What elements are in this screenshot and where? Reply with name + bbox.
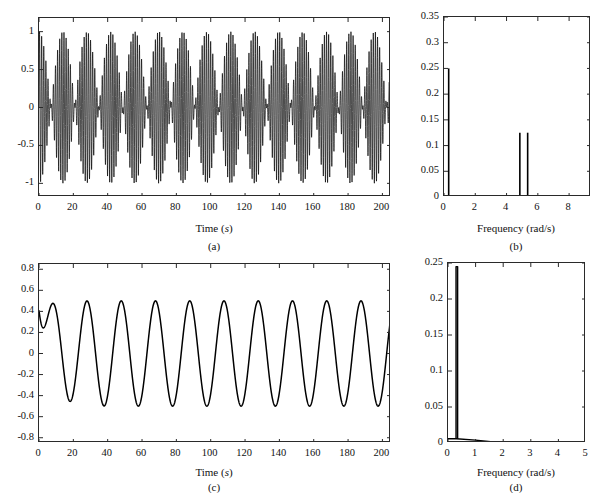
x-tick-label: 4 xyxy=(555,448,560,459)
x-tick-label: 80 xyxy=(170,448,181,459)
y-tick-label: 0.15 xyxy=(409,329,443,340)
x-tick-label: 1 xyxy=(472,448,477,459)
y-tick-label: -1 xyxy=(0,177,34,188)
plot-area-b xyxy=(443,16,590,196)
x-tick-label: 3 xyxy=(527,448,532,459)
y-tick-label: 0.2 xyxy=(405,88,439,99)
y-tick-label: 0.05 xyxy=(405,165,439,176)
x-tick-label: 100 xyxy=(202,448,218,459)
x-tick-label: 180 xyxy=(339,448,355,459)
y-tick-label: -0.6 xyxy=(0,410,34,421)
y-tick-label: 0.35 xyxy=(405,11,439,22)
y-tick-label: -0.5 xyxy=(0,139,34,150)
y-tick-label: 0.2 xyxy=(409,293,443,304)
x-tick-label: 160 xyxy=(305,448,321,459)
y-tick-label: 0.2 xyxy=(0,326,34,337)
y-tick-label: 0 xyxy=(409,437,443,448)
x-tick-label: 40 xyxy=(101,448,112,459)
y-tick-label: 0.1 xyxy=(409,365,443,376)
x-tick-label: 140 xyxy=(271,448,287,459)
plot-area-a xyxy=(38,17,390,196)
x-tick-label: 200 xyxy=(374,448,390,459)
x-tick-label: 20 xyxy=(67,448,78,459)
y-tick-label: 0.4 xyxy=(0,305,34,316)
y-tick-label: 0.25 xyxy=(405,62,439,73)
plot-area-d xyxy=(447,262,585,442)
y-tick-label: 1 xyxy=(0,25,34,36)
x-tick-label: 0 xyxy=(440,202,445,213)
panel-label-d: (d) xyxy=(510,481,523,493)
plot-area-c xyxy=(38,263,390,442)
x-tick-label: 4 xyxy=(503,202,508,213)
x-tick-label: 60 xyxy=(136,202,147,213)
y-tick-label: 0.1 xyxy=(405,139,439,150)
axis-label-b-x: Frequency (rad/s) xyxy=(477,222,555,234)
y-tick-label: -0.4 xyxy=(0,389,34,400)
x-tick-label: 2 xyxy=(500,448,505,459)
y-tick-label: -0.8 xyxy=(0,431,34,442)
x-tick-label: 0 xyxy=(35,448,40,459)
axis-label-a-x: Time (s) xyxy=(195,222,232,234)
y-tick-label: 0.6 xyxy=(0,284,34,295)
axis-label-d-x: Frequency (rad/s) xyxy=(477,466,555,478)
x-tick-label: 8 xyxy=(565,202,570,213)
y-tick-label: 0 xyxy=(405,191,439,202)
x-tick-label: 120 xyxy=(236,202,252,213)
panel-label-b: (b) xyxy=(510,240,523,252)
panel-label-c: (c) xyxy=(208,481,220,493)
x-tick-label: 0 xyxy=(35,202,40,213)
x-tick-label: 80 xyxy=(170,202,181,213)
y-tick-label: 0.25 xyxy=(409,257,443,268)
axis-label-c-x: Time (s) xyxy=(195,466,232,478)
y-tick-label: 0.15 xyxy=(405,114,439,125)
x-tick-label: 180 xyxy=(339,202,355,213)
x-tick-label: 6 xyxy=(534,202,539,213)
y-tick-label: 0.5 xyxy=(0,63,34,74)
x-tick-label: 20 xyxy=(67,202,78,213)
x-tick-label: 40 xyxy=(101,202,112,213)
panel-label-a: (a) xyxy=(208,240,220,252)
x-tick-label: 5 xyxy=(582,448,587,459)
y-tick-label: -0.2 xyxy=(0,368,34,379)
y-tick-label: 0 xyxy=(0,347,34,358)
x-tick-label: 140 xyxy=(271,202,287,213)
x-tick-label: 160 xyxy=(305,202,321,213)
y-tick-label: 0.05 xyxy=(409,401,443,412)
x-tick-label: 0 xyxy=(444,448,449,459)
y-tick-label: 0 xyxy=(0,101,34,112)
x-tick-label: 100 xyxy=(202,202,218,213)
x-tick-label: 200 xyxy=(374,202,390,213)
y-tick-label: 0.3 xyxy=(405,36,439,47)
x-tick-label: 2 xyxy=(472,202,477,213)
y-tick-label: 0.8 xyxy=(0,263,34,274)
x-tick-label: 120 xyxy=(236,448,252,459)
x-tick-label: 60 xyxy=(136,448,147,459)
